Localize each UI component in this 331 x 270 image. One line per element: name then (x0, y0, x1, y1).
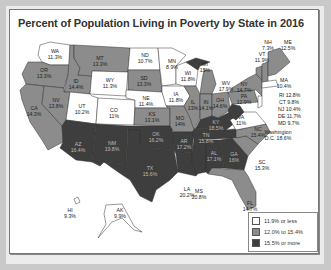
label-MA: MA10.4% (277, 77, 292, 89)
label-SC: SC15.3% (255, 159, 270, 171)
label-MO: MO14% (175, 115, 186, 127)
label-NH: NH7.3% (262, 39, 274, 51)
state-MS[interactable] (192, 140, 206, 174)
legend-item-low: 11.9% or less (252, 215, 314, 226)
legend: 11.9% or less 12.0% to 15.4% 15.5% or mo… (248, 212, 318, 252)
label-DC: WashingtonD.C. 18.6% (264, 129, 291, 141)
legend-item-mid: 12.0% to 15.4% (252, 226, 314, 237)
state-NJ[interactable] (258, 96, 262, 108)
label-MS: MS20.8% (192, 188, 207, 200)
state-MI[interactable] (200, 70, 216, 94)
label-CO: CO11% (109, 107, 119, 119)
legend-item-high: 15.5% or more (252, 237, 314, 248)
label-HI: HI9.3% (64, 207, 76, 219)
label-RI: RI 12.8% (279, 92, 301, 98)
label-ME: ME12.5% (281, 39, 296, 51)
label-DE: DE 11.7% (278, 113, 301, 119)
state-NH[interactable] (262, 62, 268, 82)
label-VT: VT11.9% (255, 51, 270, 63)
label-CT: CT 9.8% (279, 99, 299, 105)
label-MD: MD 9.7% (278, 120, 300, 126)
label-WV: WV17.9% (219, 80, 234, 92)
label-NJ: NJ 10.4% (278, 106, 301, 112)
label-MI: MI15% (200, 61, 211, 73)
state-ME[interactable] (268, 48, 290, 76)
state-HI[interactable] (74, 197, 80, 204)
